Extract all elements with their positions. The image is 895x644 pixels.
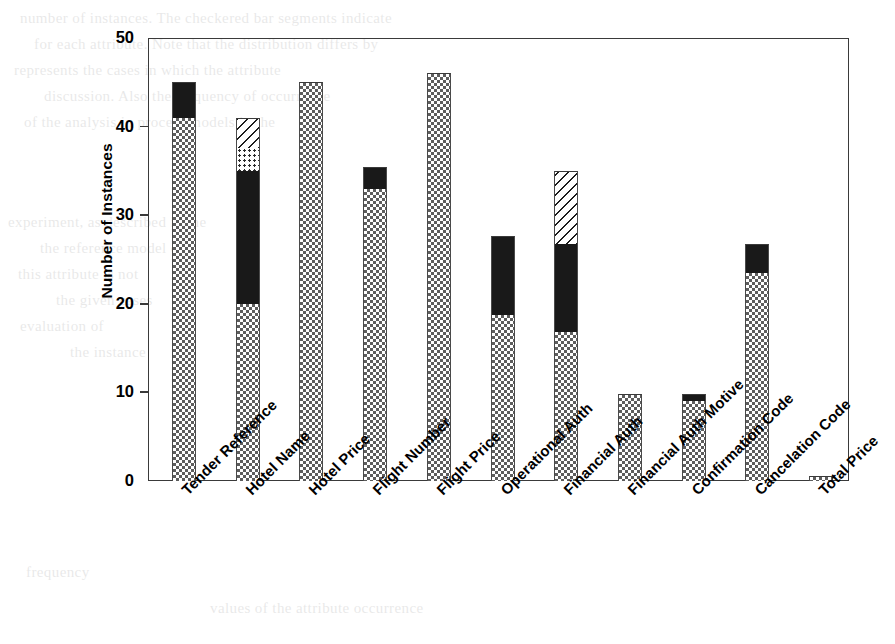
- bar-segment-solid: [554, 244, 578, 333]
- bar-segment-solid: [236, 171, 260, 304]
- bar-chart: Number of Instances 01020304050 Tender R…: [0, 0, 895, 644]
- bar: [299, 82, 323, 481]
- bar-segment-solid: [363, 167, 387, 188]
- y-axis-tick-label: 50: [116, 27, 134, 47]
- y-axis-tick-mark: [140, 126, 148, 128]
- bar-segment-hatch: [236, 118, 260, 148]
- y-axis-tick-label: 40: [116, 116, 134, 136]
- y-axis-tick-label: 10: [116, 381, 134, 401]
- bar-segment-solid: [491, 236, 515, 316]
- y-axis-label: Number of Instances: [98, 91, 116, 351]
- bar-segment-dots: [236, 148, 260, 171]
- y-axis-tick-label: 0: [125, 470, 134, 490]
- y-axis-tick-mark: [140, 391, 148, 393]
- bar-segment-checker: [745, 273, 769, 481]
- y-axis-tick-label: 30: [116, 204, 134, 224]
- bar-segment-checker: [299, 82, 323, 481]
- bar-segment-checker: [236, 304, 260, 481]
- bar-segment-solid: [172, 82, 196, 117]
- bar-segment-solid: [682, 394, 706, 401]
- y-axis-tick-label: 20: [116, 293, 134, 313]
- bar-segment-solid: [745, 244, 769, 272]
- bar: [172, 82, 196, 481]
- bar-segment-hatch: [554, 171, 578, 244]
- y-axis-tick-mark: [140, 303, 148, 305]
- bar-segment-checker: [172, 118, 196, 481]
- y-axis-tick-mark: [140, 214, 148, 216]
- bar: [363, 167, 387, 481]
- bar-segment-checker: [491, 315, 515, 481]
